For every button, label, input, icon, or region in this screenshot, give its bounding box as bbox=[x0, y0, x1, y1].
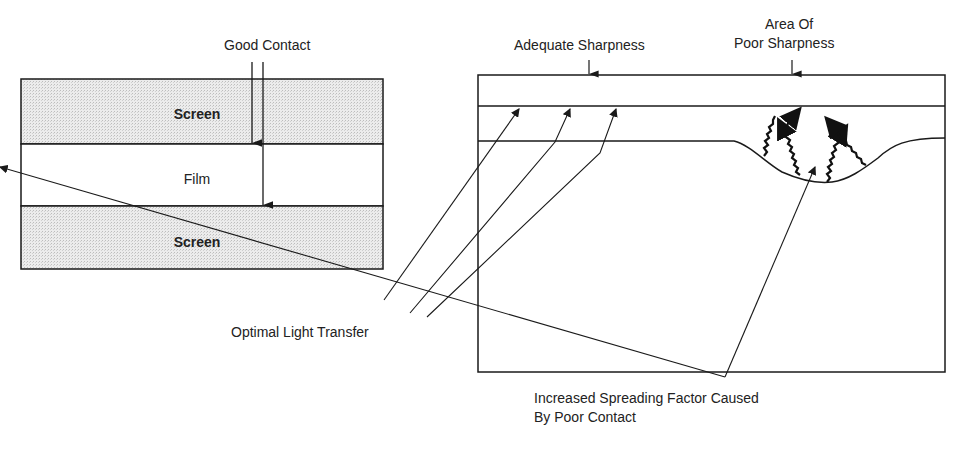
spreading-factor-label-line1: Increased Spreading Factor Caused bbox=[534, 390, 759, 407]
adequate-sharpness-label: Adequate Sharpness bbox=[514, 37, 645, 54]
poor-sharpness-label-line1: Area Of bbox=[765, 16, 813, 33]
screen-bottom-label: Screen bbox=[174, 234, 221, 250]
optimal-light-transfer-label: Optimal Light Transfer bbox=[231, 324, 369, 341]
outer-frame bbox=[478, 75, 945, 372]
poor-sharpness-label-line2: Poor Sharpness bbox=[734, 35, 834, 52]
optimal-light-transfer-leaders bbox=[384, 109, 616, 317]
film-contact-surface bbox=[478, 138, 945, 183]
good-contact-label: Good Contact bbox=[224, 37, 310, 54]
spreading-factor-label-line2: By Poor Contact bbox=[534, 409, 636, 426]
screen-top-label: Screen bbox=[174, 106, 221, 122]
diagram-canvas bbox=[0, 0, 965, 449]
film-label: Film bbox=[184, 171, 210, 187]
